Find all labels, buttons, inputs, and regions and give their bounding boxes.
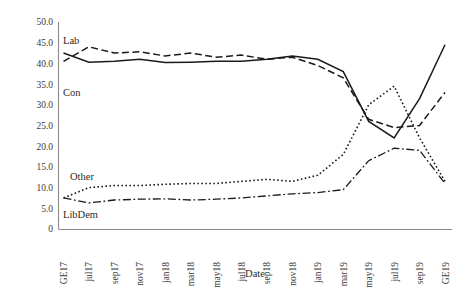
x-tick-label: nov18 [288, 262, 298, 286]
series-label-libdem: LibDem [63, 209, 98, 220]
series-line-other [64, 86, 446, 198]
y-tick-label: 10.0 [36, 183, 53, 193]
x-tick-label: GE17 [59, 262, 69, 284]
series-line-lab [64, 47, 446, 128]
series-label-lab: Lab [63, 35, 79, 46]
y-tick-label: 15.0 [36, 162, 53, 172]
y-tick-label: 20.0 [36, 142, 53, 152]
y-axis-tick-labels: 05.010.015.020.025.030.035.040.045.050.0 [36, 17, 53, 234]
y-tick-label: 50.0 [36, 17, 53, 27]
series-line-libdem [64, 148, 446, 203]
x-tick-label: jul19 [390, 262, 400, 283]
x-tick-label: jan19 [313, 262, 323, 284]
y-tick-label: 30.0 [36, 100, 53, 110]
x-tick-label: nov17 [135, 262, 145, 286]
line-chart: 05.010.015.020.025.030.035.040.045.050.0… [0, 0, 468, 292]
y-tick-label: 25.0 [36, 121, 53, 131]
y-tick-label: 40.0 [36, 59, 53, 69]
series-label-con: Con [63, 87, 81, 98]
y-tick-label: 0 [48, 224, 53, 234]
x-tick-label: jul17 [84, 262, 94, 283]
chart-canvas: 05.010.015.020.025.030.035.040.045.050.0… [0, 0, 468, 292]
x-tick-label: sep19 [415, 262, 425, 284]
y-tick-label: 5.0 [41, 204, 53, 214]
x-tick-label: jan18 [161, 262, 171, 284]
x-tick-label: may18 [212, 262, 222, 288]
series-lines [64, 45, 446, 203]
x-tick-label: sep17 [110, 262, 120, 284]
series-label-other: Other [70, 171, 94, 182]
x-tick-label: GE19 [441, 262, 451, 284]
x-tick-label: may19 [364, 262, 374, 288]
x-axis-title: Date [245, 268, 265, 279]
x-tick-label: mar18 [186, 262, 196, 287]
y-tick-label: 35.0 [36, 80, 53, 90]
x-tick-label: mar19 [339, 262, 349, 287]
y-tick-label: 45.0 [36, 38, 53, 48]
